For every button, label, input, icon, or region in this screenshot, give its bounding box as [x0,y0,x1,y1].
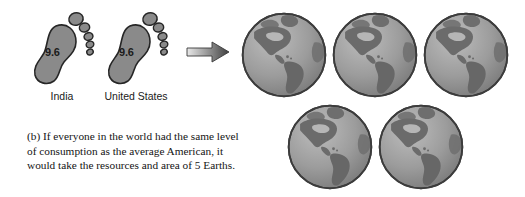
arrow-right-icon [186,40,230,64]
footprint-wrap: 9.6 [26,8,98,88]
figure-caption: (b) If everyone in the world had the sam… [27,129,222,173]
footprint-label-india: India [26,90,98,102]
globe-americas-icon [422,11,510,99]
footprint-label-united-states: United States [100,90,172,102]
globe-americas-icon [240,11,328,99]
footprint-icon [100,8,172,88]
caption-line-2: of consumption as the average American, … [27,144,222,159]
footprint-group-india: 9.6 India [26,8,98,88]
footprint-value-united-states: 9.6 [119,46,134,58]
footprint-icon [26,8,98,88]
figure-container: 9.6 India 9.6 United States [0,0,525,197]
footprint-value-india: 9.6 [45,46,60,58]
caption-line-1: (b) If everyone in the world had the sam… [27,129,222,144]
footprint-wrap: 9.6 [100,8,172,88]
caption-line-3: would take the resources and area of 5 E… [27,158,222,173]
globe-americas-icon [286,103,374,191]
footprint-group-united-states: 9.6 United States [100,8,172,88]
globe-americas-icon [331,11,419,99]
globe-americas-icon [377,103,465,191]
